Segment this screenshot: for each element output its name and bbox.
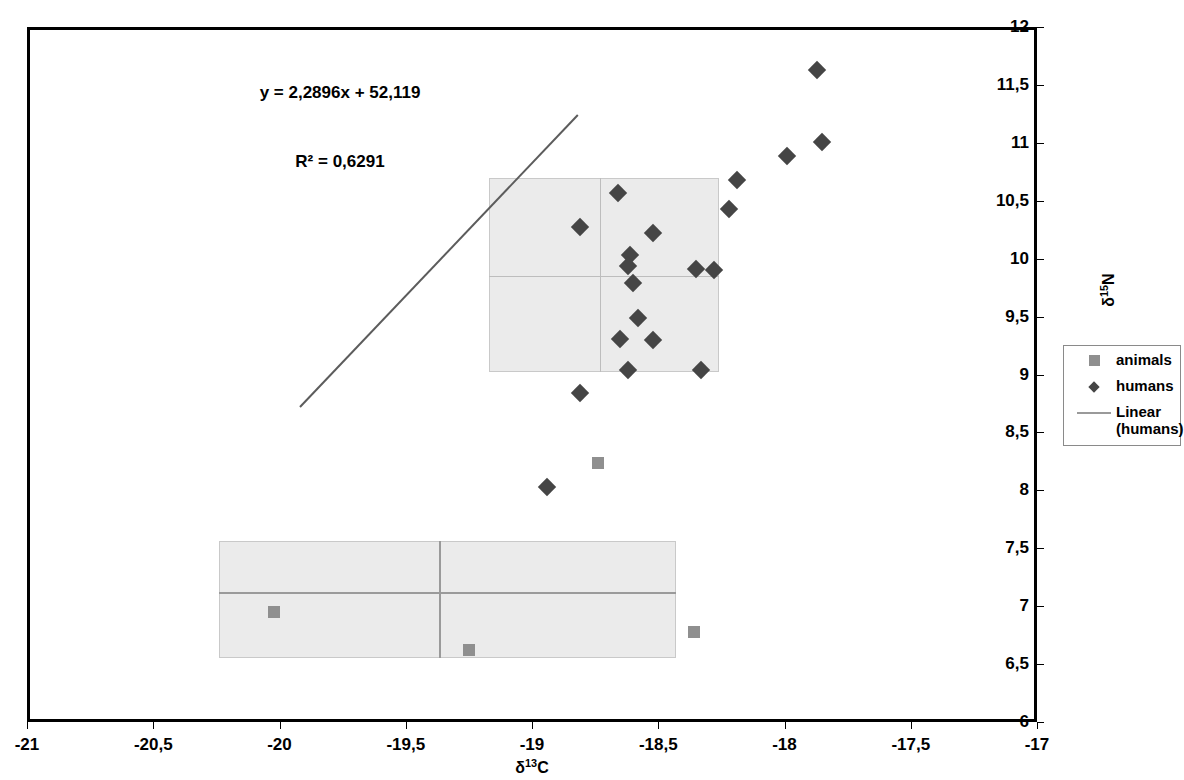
y-axis-tick-label: 11,5 bbox=[977, 75, 1029, 95]
legend-item-humans[interactable]: humans bbox=[1072, 378, 1172, 395]
y-axis-tick-label: 7,5 bbox=[977, 538, 1029, 558]
x-axis-tick-label: -21 bbox=[15, 735, 40, 755]
legend-label-linear-humans: Linear (humans) bbox=[1116, 404, 1184, 438]
data-point-humans bbox=[571, 384, 589, 402]
y-axis-tick-label: 10 bbox=[977, 249, 1029, 269]
x-axis-tick-label: -19,5 bbox=[386, 735, 425, 755]
y-axis-tick-label: 12 bbox=[977, 17, 1029, 37]
r-squared-value: R² = 0,6291 bbox=[180, 151, 500, 174]
legend-item-linear-humans[interactable]: Linear (humans) bbox=[1072, 404, 1172, 438]
y-axis-tick-label: 8 bbox=[977, 480, 1029, 500]
y-axis-tick bbox=[1037, 85, 1044, 86]
humans-cluster-box bbox=[489, 178, 719, 373]
y-axis-tick-label: 10,5 bbox=[977, 191, 1029, 211]
x-axis-tick-label: -17,5 bbox=[891, 735, 930, 755]
x-axis-tick bbox=[280, 722, 281, 729]
x-axis-tick-label: -17 bbox=[1025, 735, 1050, 755]
x-axis-tick bbox=[532, 722, 533, 729]
y-axis-tick bbox=[1037, 27, 1044, 28]
x-axis-tick bbox=[406, 722, 407, 729]
y-axis-tick bbox=[1037, 143, 1044, 144]
x-axis-tick bbox=[785, 722, 786, 729]
x-axis-tick bbox=[27, 722, 28, 729]
y-axis-tick bbox=[1037, 201, 1044, 202]
y-axis-tick bbox=[1037, 490, 1044, 491]
y-axis-title: δ15N bbox=[1098, 273, 1118, 306]
data-point-humans bbox=[727, 171, 745, 189]
legend-label-humans: humans bbox=[1116, 378, 1174, 395]
x-axis-tick-label: -20,5 bbox=[134, 735, 173, 755]
plot-area bbox=[27, 27, 1037, 722]
regression-equation: y = 2,2896x + 52,119 bbox=[180, 82, 500, 105]
x-axis-tick-label: -18,5 bbox=[639, 735, 678, 755]
legend: animals humans Linear (humans) bbox=[1063, 345, 1181, 446]
y-axis-tick bbox=[1037, 722, 1044, 723]
line-marker-icon bbox=[1072, 404, 1116, 421]
square-marker-icon bbox=[1072, 352, 1116, 369]
y-axis-tick bbox=[1037, 375, 1044, 376]
y-axis-tick-label: 11 bbox=[977, 133, 1029, 153]
y-axis-tick-label: 9,5 bbox=[977, 307, 1029, 327]
data-point-animals bbox=[268, 606, 280, 618]
y-axis-tick-label: 9 bbox=[977, 365, 1029, 385]
y-axis-tick bbox=[1037, 432, 1044, 433]
animals-cluster-box-mean-y-line bbox=[219, 592, 676, 594]
data-point-animals bbox=[688, 626, 700, 638]
x-axis-tick-label: -20 bbox=[267, 735, 292, 755]
data-point-animals bbox=[463, 644, 475, 656]
x-axis-tick bbox=[1037, 722, 1038, 729]
animals-cluster-box-mean-x-line bbox=[439, 541, 441, 658]
x-axis-tick bbox=[658, 722, 659, 729]
diamond-marker-icon bbox=[1072, 378, 1116, 395]
x-axis-tick bbox=[911, 722, 912, 729]
data-point-humans bbox=[720, 200, 738, 218]
y-axis-tick bbox=[1037, 548, 1044, 549]
y-axis-tick-label: 7 bbox=[977, 596, 1029, 616]
legend-item-animals[interactable]: animals bbox=[1072, 352, 1172, 369]
x-axis-tick-label: -18 bbox=[772, 735, 797, 755]
y-axis-tick-label: 6,5 bbox=[977, 654, 1029, 674]
x-axis-tick-label: -19 bbox=[520, 735, 545, 755]
animals-cluster-box bbox=[219, 541, 676, 658]
x-axis-title: δ13C bbox=[515, 757, 548, 777]
data-point-humans bbox=[808, 61, 826, 79]
y-axis-tick bbox=[1037, 606, 1044, 607]
data-point-humans bbox=[813, 132, 831, 150]
regression-annotation: y = 2,2896x + 52,119 R² = 0,6291 bbox=[180, 36, 500, 220]
y-axis-tick bbox=[1037, 664, 1044, 665]
y-axis-tick-label: 8,5 bbox=[977, 422, 1029, 442]
humans-cluster-box-mean-y-line bbox=[489, 276, 719, 277]
x-axis-tick bbox=[153, 722, 154, 729]
data-point-humans bbox=[778, 146, 796, 164]
chart-canvas: y = 2,2896x + 52,119 R² = 0,6291 δ13C δ1… bbox=[0, 0, 1184, 780]
y-axis-tick bbox=[1037, 317, 1044, 318]
data-point-humans bbox=[538, 478, 556, 496]
data-point-animals bbox=[592, 457, 604, 469]
y-axis-tick bbox=[1037, 259, 1044, 260]
legend-label-animals: animals bbox=[1116, 352, 1172, 369]
y-axis-tick-label: 6 bbox=[977, 712, 1029, 732]
humans-cluster-box-mean-x-line bbox=[600, 178, 601, 373]
